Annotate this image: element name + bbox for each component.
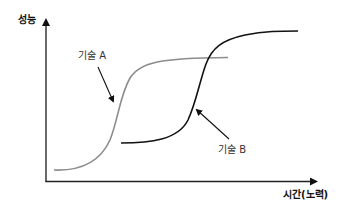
tech-a-arrow xyxy=(98,67,113,101)
s-curve-diagram xyxy=(0,0,349,214)
tech-b-arrow xyxy=(197,110,229,139)
y-axis-label: 성능 xyxy=(18,15,36,25)
tech-b-curve xyxy=(121,31,298,143)
x-axis-label: 시간(노력) xyxy=(283,190,328,200)
tech-b-label: 기술 B xyxy=(218,145,246,155)
tech-a-label: 기술 A xyxy=(78,51,106,61)
